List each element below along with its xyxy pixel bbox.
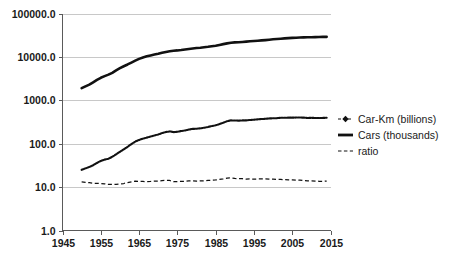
y-tick-label: 10.0 [35, 181, 56, 193]
y-tick-label: 100.0 [29, 138, 55, 150]
x-tick-label: 1975 [166, 237, 190, 249]
gridlines-group [63, 15, 331, 188]
x-tick-group: 19451955196519751985199520052015 [52, 231, 344, 249]
legend-label: Cars (thousands) [358, 129, 439, 141]
x-tick-label: 1945 [52, 237, 76, 249]
y-tick-label: 1.0 [41, 225, 56, 237]
series-line-car-km [82, 117, 327, 169]
x-tick-label: 1985 [205, 237, 229, 249]
x-tick-label: 1955 [90, 237, 114, 249]
x-tick-label: 2005 [281, 237, 305, 249]
x-tick-label: 1965 [128, 237, 152, 249]
series-line-cars [82, 37, 327, 88]
axes-group [63, 14, 331, 231]
log-line-chart: 100000.010000.01000.0100.010.01.0 194519… [0, 0, 450, 266]
y-tick-label: 1000.0 [23, 94, 55, 106]
chart-container: 100000.010000.01000.0100.010.01.0 194519… [0, 0, 450, 266]
y-tick-label: 10000.0 [18, 51, 56, 63]
series-line-ratio [82, 178, 327, 185]
legend-label: ratio [358, 145, 379, 157]
y-tick-group: 100000.010000.01000.0100.010.01.0 [12, 8, 63, 237]
series-group [82, 37, 327, 185]
x-tick-label: 1995 [243, 237, 267, 249]
y-tick-label: 100000.0 [12, 8, 56, 20]
x-tick-label: 2015 [320, 237, 344, 249]
legend-label: Car-Km (billions) [358, 113, 436, 125]
legend-group: Car-Km (billions)Cars (thousands)ratio [338, 113, 439, 157]
legend-swatch-car-km-marker [342, 116, 348, 122]
